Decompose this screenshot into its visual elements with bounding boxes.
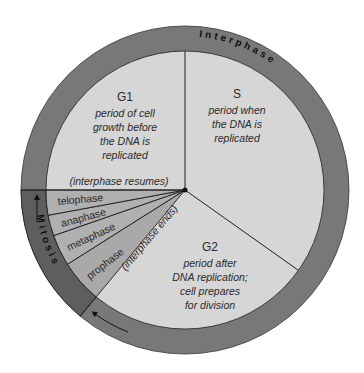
g2-desc-line-3: cell prepares	[180, 285, 241, 297]
g1-title: G1	[117, 90, 133, 104]
g2-desc-line-2: DNA replication;	[172, 271, 248, 283]
g1-desc-line-2: growth before	[93, 121, 157, 133]
g1-desc-line-3: the DNA is	[100, 135, 151, 147]
g1-desc-line-4: replicated	[102, 149, 149, 161]
s-title: S	[233, 87, 241, 101]
g2-desc-line-4: for division	[185, 299, 235, 311]
g2-desc-line-1: period after	[182, 257, 237, 269]
g1-note: (interphase resumes)	[69, 175, 168, 187]
g1-desc-line-1: period of cell	[94, 107, 155, 119]
g2-title: G2	[202, 240, 218, 254]
s-desc-line-1: period when	[207, 104, 265, 116]
center-point	[183, 188, 188, 193]
cell-cycle-diagram: Interphase Mitosis G1 period of cell gro…	[0, 0, 364, 373]
s-desc-line-3: replicated	[214, 132, 261, 144]
s-desc-line-2: the DNA is	[212, 118, 263, 130]
